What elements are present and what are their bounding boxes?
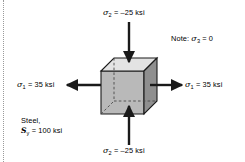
material-label: Steel, Sy = 100 ksi bbox=[21, 116, 62, 136]
sigma2-bottom-subscript: 2 bbox=[109, 150, 112, 156]
sigma1-right-value: = 35 ksi bbox=[194, 80, 223, 89]
cube-front-face bbox=[101, 71, 144, 114]
sigma1-right-label: σ1 = 35 ksi bbox=[185, 80, 222, 90]
material-name: Steel, bbox=[21, 116, 62, 125]
note-prefix: Note: bbox=[171, 34, 191, 43]
sigma2-bottom-symbol: σ bbox=[103, 146, 109, 155]
note-subscript: 3 bbox=[197, 38, 200, 44]
sigma1-left-symbol: σ bbox=[17, 80, 23, 89]
yield-strength-value: = 100 ksi bbox=[30, 126, 63, 135]
sigma2-top-value: = –25 ksi bbox=[112, 8, 145, 17]
sigma3-note: Note: σ3 = 0 bbox=[171, 34, 213, 44]
sigma2-top-label: σ2 = –25 ksi bbox=[103, 8, 145, 18]
sigma2-bottom-value: = –25 ksi bbox=[112, 146, 145, 155]
sigma2-top-subscript: 2 bbox=[109, 12, 112, 18]
sigma2-top-symbol: σ bbox=[103, 8, 109, 17]
sigma1-right-symbol: σ bbox=[185, 80, 191, 89]
sigma1-right-subscript: 1 bbox=[191, 84, 194, 90]
note-value: = 0 bbox=[200, 34, 213, 43]
sigma2-bottom-label: σ2 = –25 ksi bbox=[103, 146, 145, 156]
yield-strength-symbol: S bbox=[21, 126, 27, 135]
yield-strength-subscript: y bbox=[27, 130, 30, 136]
sigma1-left-value: = 35 ksi bbox=[26, 80, 55, 89]
sigma1-left-subscript: 1 bbox=[23, 84, 26, 90]
stress-element-figure: σ2 = –25 ksi σ2 = –25 ksi σ1 = 35 ksi σ1… bbox=[0, 0, 245, 162]
yield-strength-line: Sy = 100 ksi bbox=[21, 126, 62, 136]
sigma1-left-label: σ1 = 35 ksi bbox=[17, 80, 54, 90]
